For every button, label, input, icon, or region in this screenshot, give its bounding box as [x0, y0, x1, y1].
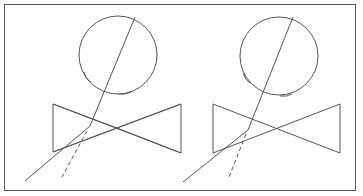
left-bowtie-left-triangle [53, 104, 117, 152]
left-bowtie-right-triangle [117, 104, 181, 153]
diagram-canvas [0, 0, 363, 196]
left-dashed-ray [62, 131, 87, 177]
right-solid-ray [183, 17, 293, 182]
right-dashed-ray [229, 134, 246, 177]
left-panel [25, 16, 181, 181]
right-circle [240, 17, 318, 95]
left-circle-mark-1 [84, 72, 91, 82]
right-panel [183, 17, 340, 182]
left-solid-ray [25, 17, 135, 181]
